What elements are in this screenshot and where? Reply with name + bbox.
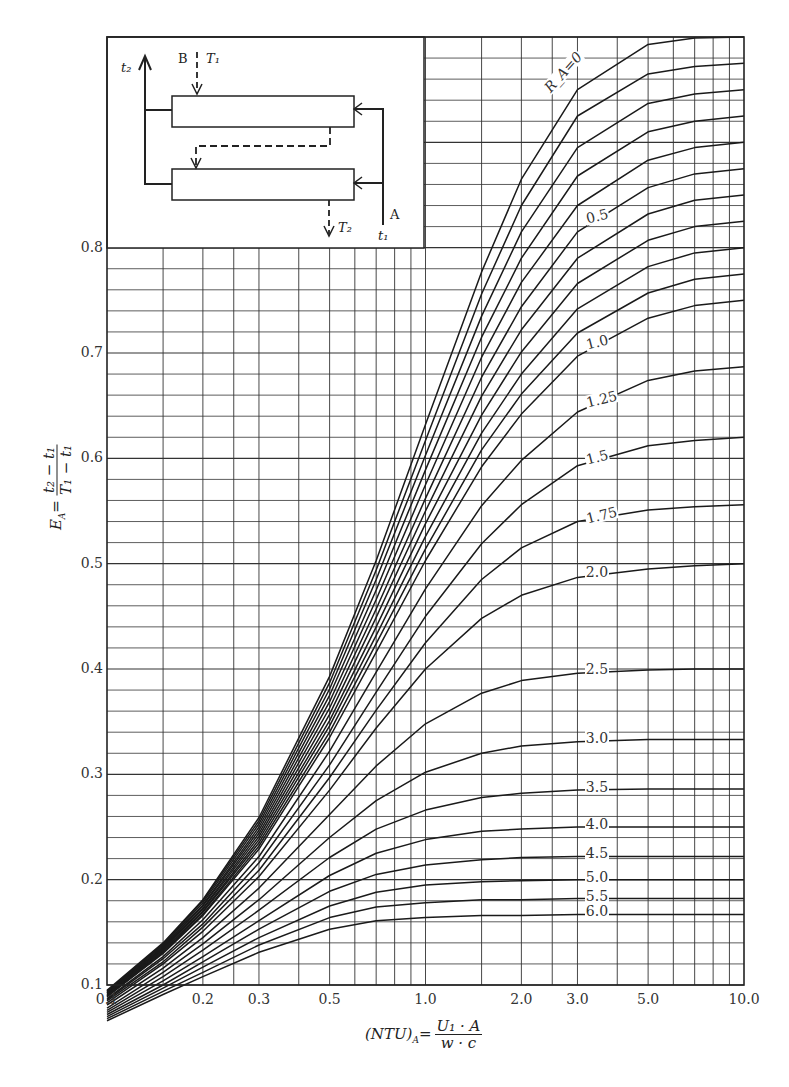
x-tick-label: 5.0 bbox=[623, 991, 673, 1007]
inset-label-T2: T₂ bbox=[338, 220, 352, 235]
inset-label-B: B bbox=[178, 51, 188, 66]
inset-label-t2: t₂ bbox=[121, 60, 131, 75]
x-tick-label: 0.5 bbox=[305, 991, 355, 1007]
x-label-symbol: (NTU) bbox=[365, 1025, 412, 1043]
x-tick-label: 2.0 bbox=[496, 991, 546, 1007]
x-tick-label: 0.1 bbox=[82, 991, 132, 1007]
x-label-denominator: w · c bbox=[439, 1035, 479, 1051]
y-label-symbol: E bbox=[47, 519, 65, 530]
curve-label: 3.5 bbox=[585, 780, 609, 794]
exchanger-lower bbox=[172, 169, 354, 200]
y-tick-label: 0.2 bbox=[63, 871, 103, 887]
curve-label: 4.0 bbox=[585, 817, 609, 831]
x-label-numerator: U₁ · A bbox=[435, 1018, 483, 1035]
curve-label: 2.5 bbox=[585, 662, 609, 676]
x-tick-label: 0.2 bbox=[178, 991, 228, 1007]
y-axis-label: EA=t₂ − t₁T₁ − t₁ bbox=[41, 402, 74, 572]
x-tick-label: 3.0 bbox=[552, 991, 602, 1007]
y-tick-label: 0.4 bbox=[63, 660, 103, 676]
x-tick-label: 1.0 bbox=[401, 991, 451, 1007]
x-tick-label: 0.3 bbox=[234, 991, 284, 1007]
y-tick-label: 0.7 bbox=[63, 344, 103, 360]
curve-label: 4.5 bbox=[585, 846, 609, 860]
curve-label: 2.0 bbox=[585, 565, 609, 579]
exchanger-upper bbox=[172, 96, 354, 127]
inset-label-T1: T₁ bbox=[206, 51, 220, 66]
y-tick-label: 0.8 bbox=[63, 239, 103, 255]
effectiveness-chart bbox=[0, 0, 789, 1087]
curve-label: 3.0 bbox=[585, 731, 609, 745]
curve-label: 5.0 bbox=[585, 870, 609, 884]
y-tick-label: 0.3 bbox=[63, 765, 103, 781]
y-label-subscript: A bbox=[57, 513, 67, 520]
x-tick-label: 10.0 bbox=[719, 991, 769, 1007]
y-label-numerator: t₂ − t₁ bbox=[41, 445, 58, 495]
inset-label-t1: t₁ bbox=[378, 228, 388, 243]
y-tick-label: 0.1 bbox=[63, 976, 103, 992]
x-label-subscript: A bbox=[412, 1035, 419, 1045]
curve-label: 5.5 bbox=[585, 889, 609, 903]
inset-label-A: A bbox=[390, 207, 399, 222]
flow-diagram-inset bbox=[107, 37, 424, 248]
curve-label: 6.0 bbox=[585, 904, 609, 918]
x-axis-label: (NTU)A=U₁ · Aw · c bbox=[365, 1018, 482, 1051]
y-label-denominator: T₁ − t₁ bbox=[58, 443, 74, 497]
